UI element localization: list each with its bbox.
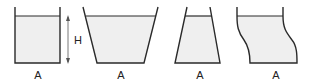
container-cylinder: A (15, 7, 60, 81)
height-marker: H (66, 15, 82, 64)
container-curved: A (237, 7, 297, 81)
arrow-down-icon (66, 58, 70, 64)
container-widening: A (83, 7, 158, 81)
arrow-up-icon (66, 15, 70, 21)
water-fill (15, 16, 60, 63)
base-area-label: A (34, 69, 42, 81)
container-narrowing: A (175, 7, 220, 81)
vessel-diagram: A H A A A (0, 0, 312, 84)
height-label: H (74, 34, 82, 46)
water-fill (237, 16, 297, 63)
base-area-label: A (117, 69, 125, 81)
base-area-label: A (272, 69, 280, 81)
base-area-label: A (196, 69, 204, 81)
